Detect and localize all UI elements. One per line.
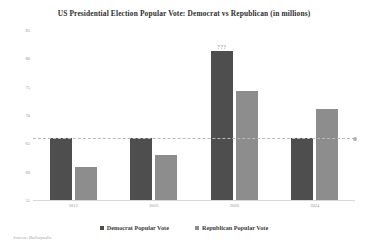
bar-group <box>114 30 195 200</box>
x-axis-tick-label: 2020 <box>230 203 239 208</box>
bar-republican-2024[interactable] <box>316 109 338 200</box>
x-axis-tick-label: 2016 <box>149 203 158 208</box>
chart-container: US Presidential Election Popular Vote: D… <box>0 0 368 252</box>
legend-swatch-democrat <box>100 226 104 230</box>
source-note: Source: Ballotpedia <box>13 235 51 240</box>
bar-democrat-2020[interactable]: ??? <box>211 51 233 200</box>
bar-republican-2012[interactable] <box>75 167 97 200</box>
legend-label-republican: Republican Popular Vote <box>202 224 268 231</box>
bar-group <box>33 30 114 200</box>
y-axis-tick-label: 65 <box>25 141 30 146</box>
legend-swatch-republican <box>195 226 199 230</box>
x-axis-tick-label: 2024 <box>310 203 319 208</box>
bar-republican-2016[interactable] <box>155 155 177 200</box>
bar-democrat-2012[interactable] <box>50 138 72 200</box>
legend-label-democrat: Democrat Popular Vote <box>107 224 169 231</box>
y-axis-tick-label: 55 <box>25 198 30 203</box>
y-axis-tick-label: 75 <box>25 84 30 89</box>
y-axis-tick-label: 85 <box>25 28 30 33</box>
x-axis-tick-label: 2012 <box>69 203 78 208</box>
bar-group: ??? <box>194 30 275 200</box>
bar-democrat-2024[interactable] <box>291 138 313 200</box>
bar-group <box>275 30 356 200</box>
chart-legend: Democrat Popular Vote Republican Popular… <box>0 224 368 231</box>
y-axis-tick-label: 60 <box>25 169 30 174</box>
bar-republican-2020[interactable] <box>236 91 258 200</box>
chart-title: US Presidential Election Popular Vote: D… <box>0 9 368 18</box>
y-axis-tick-label: 80 <box>25 56 30 61</box>
bar-democrat-2016[interactable] <box>130 138 152 200</box>
plot-area: 85807570656055??? <box>33 30 355 200</box>
bar-annotation: ??? <box>217 44 227 50</box>
legend-item-democrat[interactable]: Democrat Popular Vote <box>100 224 169 231</box>
legend-item-republican[interactable]: Republican Popular Vote <box>195 224 268 231</box>
x-axis-line <box>33 200 355 201</box>
y-axis-tick-label: 70 <box>25 113 30 118</box>
